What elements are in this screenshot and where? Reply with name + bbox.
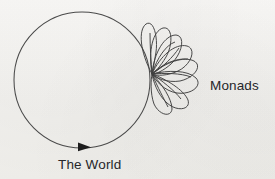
monad-cluster: [141, 23, 198, 114]
direction-arrowhead-icon: [78, 142, 91, 151]
diagram-canvas: The World Monads: [0, 0, 275, 179]
monads-label: Monads: [210, 79, 259, 93]
world-circle: [14, 12, 150, 148]
monad-inner-stroke-4: [152, 74, 181, 99]
world-label: The World: [58, 158, 121, 172]
